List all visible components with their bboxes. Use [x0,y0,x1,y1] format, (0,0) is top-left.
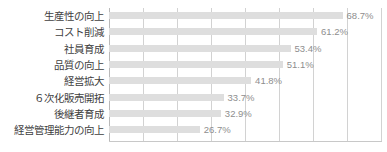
value-label: 61.2% [321,24,348,40]
value-label: 26.7% [204,122,231,138]
category-label: 経営拡大 [0,73,104,89]
bar-row: ６次化販売開拓33.7% [109,90,381,106]
category-label: 社員育成 [0,41,104,57]
category-label: 生産性の向上 [0,8,104,24]
bar [109,110,221,117]
bar-row: 社員育成53.4% [109,41,381,57]
horizontal-bar-chart: 生産性の向上68.7%コスト削減61.2%社員育成53.4%品質の向上51.1%… [0,0,387,152]
bar-row: 後継者育成32.9% [109,106,381,122]
category-label: 経営管理能力の向上 [0,122,104,138]
bar [109,126,200,133]
bar [109,77,251,84]
value-label: 53.4% [295,41,322,57]
bar-row: 経営拡大41.8% [109,73,381,89]
gridline-80 [381,8,382,142]
category-label: 後継者育成 [0,106,104,122]
value-label: 41.8% [255,73,282,89]
bar [109,45,291,52]
category-label: 品質の向上 [0,57,104,73]
value-label: 68.7% [347,8,374,24]
bar [109,12,343,19]
bar [109,94,224,101]
value-label: 51.1% [287,57,314,73]
bar-row: 経営管理能力の向上26.7% [109,122,381,138]
category-label: コスト削減 [0,24,104,40]
bar-row: 生産性の向上68.7% [109,8,381,24]
x-axis-baseline [109,141,382,142]
bar [109,61,283,68]
value-label: 33.7% [228,90,255,106]
plot-area: 生産性の向上68.7%コスト削減61.2%社員育成53.4%品質の向上51.1%… [109,8,381,142]
bar [109,28,317,35]
bar-row: 品質の向上51.1% [109,57,381,73]
category-label: ６次化販売開拓 [0,90,104,106]
bar-row: コスト削減61.2% [109,24,381,40]
value-label: 32.9% [225,106,252,122]
